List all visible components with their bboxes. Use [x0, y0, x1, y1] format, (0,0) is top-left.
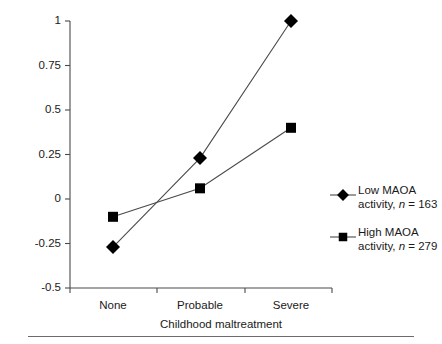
data-point-marker-diamond: [284, 14, 298, 28]
data-point-marker-square: [195, 183, 205, 193]
legend-label: Low MAOAactivity, n = 163: [358, 184, 437, 211]
y-axis-tick-label: 0: [18, 193, 61, 205]
legend-n-symbol: n: [399, 198, 405, 210]
plot-area: [0, 0, 442, 344]
legend-label-line2: activity, n = 279: [358, 240, 437, 254]
x-axis-title: Childhood maltreatment: [0, 318, 442, 330]
series-high-maoa: [108, 123, 296, 222]
y-axis-title: Composite index of antisocial behavior (…: [3, 0, 47, 44]
y-axis-title-text: Composite index of antisocial behavior (…: [3, 0, 31, 44]
legend-diamond-icon: [330, 187, 356, 199]
legend-square-icon: [330, 229, 356, 241]
legend-entry-high-maoa: High MAOAactivity, n = 279: [330, 228, 442, 256]
bottom-divider: [28, 336, 414, 337]
data-point-marker-square: [286, 123, 296, 133]
x-axis-tick-label-severe: Severe: [273, 300, 309, 312]
chart-canvas: [0, 0, 442, 344]
y-axis-tick-label: 0.75: [18, 60, 61, 72]
legend-entry-low-maoa: Low MAOAactivity, n = 163: [330, 186, 442, 214]
figure-container: 10.750.50.250-0.25-0.5 NoneProbableSever…: [0, 0, 442, 344]
y-axis-tick-label: -0.25: [18, 238, 61, 250]
series-low-maoa: [106, 14, 298, 254]
y-axis-tick-label: -0.5: [18, 282, 61, 294]
y-axis-tick-label: 0.5: [18, 104, 61, 116]
x-axis-tick-label-probable: Probable: [177, 300, 223, 312]
series-line: [113, 128, 291, 217]
x-axis-tick-label-none: None: [99, 300, 127, 312]
legend-label-line2: activity, n = 163: [358, 198, 437, 212]
legend-label-line1: High MAOA: [358, 226, 437, 240]
legend-label: High MAOAactivity, n = 279: [358, 226, 437, 253]
x-axis-title-text: Childhood maltreatment: [160, 318, 282, 330]
data-point-marker-square: [108, 212, 118, 222]
legend-n-symbol: n: [399, 240, 405, 252]
y-axis-tick-label: 0.25: [18, 149, 61, 161]
legend-label-line1: Low MAOA: [358, 184, 437, 198]
data-point-marker-diamond: [337, 189, 349, 201]
data-point-marker-square: [339, 233, 348, 242]
series-line: [113, 21, 291, 247]
legend: Low MAOAactivity, n = 163High MAOAactivi…: [330, 186, 442, 270]
